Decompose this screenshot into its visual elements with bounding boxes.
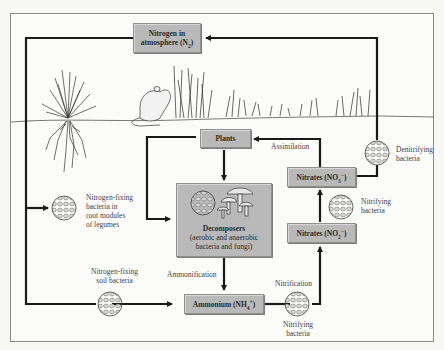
- plants-label: Plants: [215, 134, 235, 143]
- denitrifying-bacteria-icon: [364, 140, 390, 166]
- soil-bacteria-label: Nitrogen-fixing soil bacteria: [91, 267, 138, 285]
- atmosphere-line1: Nitrogen in: [149, 29, 185, 38]
- nitrates-no3-box: Nitrates (NO3−): [287, 167, 356, 187]
- mushroom-icon: [217, 188, 253, 218]
- bacteria-icon: [191, 191, 215, 215]
- decomposers-box: Decomposers (aerobic and anaerobic bacte…: [176, 183, 272, 257]
- decomposers-line3: bacteria and fungi): [196, 242, 253, 251]
- nitrifying-bacteria-lower-icon: [284, 291, 310, 317]
- atmosphere-box: Nitrogen in atmosphere (N2): [133, 23, 201, 53]
- plants-box: Plants: [200, 129, 251, 148]
- nitrates-no2-box: Nitrates (NO2−): [287, 223, 356, 243]
- denitrifying-label: Denitrifying bacteria: [396, 145, 433, 163]
- grass-plant-illustration: [42, 70, 96, 172]
- ammonium-box: Ammonium (NH4+): [184, 294, 264, 314]
- legume-bacteria-icon: [51, 195, 77, 221]
- decomposers-illustration: [189, 184, 259, 221]
- nitrification-label: Nitrification: [275, 279, 312, 288]
- tall-grass-illustration: [174, 66, 370, 118]
- nitrifying-upper-label: Nitrifying bacteria: [361, 197, 391, 215]
- nitrates-no3-label: Nitrates (NO3−): [297, 173, 347, 182]
- ammonification-label: Ammonification: [167, 270, 217, 279]
- assimilation-label: Assimilation: [271, 142, 309, 151]
- atmosphere-line2: atmosphere (N2): [141, 38, 193, 47]
- ammonium-label: Ammonium (NH4+): [193, 300, 255, 309]
- decomposers-title: Decomposers: [203, 224, 246, 233]
- decomposers-line2: (aerobic and anaerobic: [190, 233, 258, 242]
- legume-bacteria-label: Nitrogen-fixing bacteria in root modules…: [86, 193, 133, 229]
- ground-line: [11, 116, 434, 122]
- nitrifying-bacteria-upper-icon: [328, 194, 354, 220]
- soil-bacteria-icon: [97, 291, 123, 317]
- nitrifying-lower-label: Nitrifying bacteria: [283, 320, 313, 338]
- nitrates-no2-label: Nitrates (NO2−): [297, 229, 347, 238]
